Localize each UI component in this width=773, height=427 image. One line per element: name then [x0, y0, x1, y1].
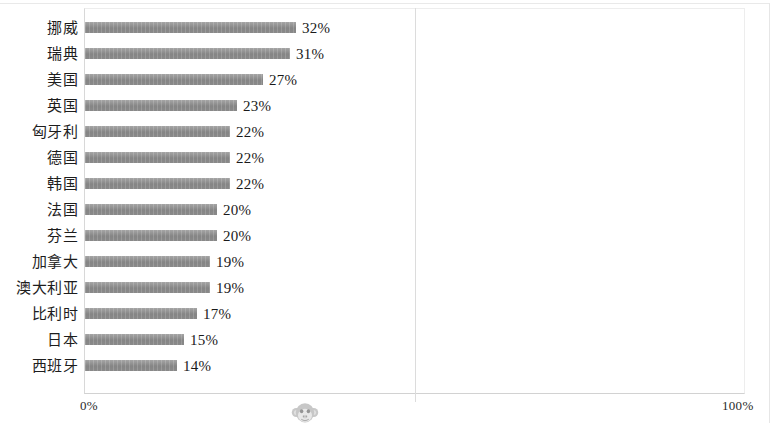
bar	[85, 178, 230, 189]
bar-row: 法国20%	[0, 197, 773, 223]
category-label: 日本	[47, 327, 78, 353]
bar-value-label: 23%	[243, 93, 271, 119]
bar	[85, 152, 230, 163]
x-axis-tick-0: 0%	[80, 398, 98, 414]
bar	[85, 230, 217, 241]
monkey-face-watermark-icon	[291, 400, 319, 426]
bar	[85, 360, 177, 371]
bar-value-label: 15%	[190, 327, 218, 353]
bar	[85, 48, 290, 59]
category-label: 比利时	[32, 301, 79, 327]
bar	[85, 22, 296, 33]
bar-row: 西班牙14%	[0, 353, 773, 379]
bar	[85, 282, 210, 293]
bar-value-label: 20%	[223, 197, 251, 223]
category-label: 韩国	[47, 171, 78, 197]
bar-value-label: 19%	[216, 275, 244, 301]
bar	[85, 204, 217, 215]
bar-value-label: 22%	[236, 171, 264, 197]
bar-value-label: 32%	[302, 15, 330, 41]
category-label: 英国	[47, 93, 78, 119]
bar-value-label: 22%	[236, 145, 264, 171]
bar-value-label: 14%	[183, 353, 211, 379]
category-label: 芬兰	[47, 223, 78, 249]
bar-row: 比利时17%	[0, 301, 773, 327]
bar-value-label: 20%	[223, 223, 251, 249]
category-label: 德国	[47, 145, 78, 171]
bar-rows: 挪威32%瑞典31%美国27%英国23%匈牙利22%德国22%韩国22%法国20…	[0, 0, 773, 394]
category-label: 加拿大	[32, 249, 79, 275]
bar-value-label: 31%	[296, 41, 324, 67]
x-axis-tick-100: 100%	[722, 398, 754, 414]
x-axis: 0% 100%	[0, 398, 773, 427]
bar	[85, 74, 263, 85]
bar-row: 芬兰20%	[0, 223, 773, 249]
bar-row: 英国23%	[0, 93, 773, 119]
bar	[85, 100, 237, 111]
bar-row: 德国22%	[0, 145, 773, 171]
category-label: 挪威	[47, 15, 78, 41]
bar	[85, 308, 197, 319]
bar-row: 韩国22%	[0, 171, 773, 197]
bar-row: 加拿大19%	[0, 249, 773, 275]
bar-row: 日本15%	[0, 327, 773, 353]
bar-row: 美国27%	[0, 67, 773, 93]
category-label: 西班牙	[32, 353, 79, 379]
bar-chart: 挪威32%瑞典31%美国27%英国23%匈牙利22%德国22%韩国22%法国20…	[0, 0, 773, 427]
bar-row: 瑞典31%	[0, 41, 773, 67]
category-label: 澳大利亚	[16, 275, 78, 301]
bar	[85, 334, 184, 345]
bar	[85, 126, 230, 137]
bar-row: 匈牙利22%	[0, 119, 773, 145]
bar-value-label: 22%	[236, 119, 264, 145]
bar-value-label: 19%	[216, 249, 244, 275]
category-label: 匈牙利	[32, 119, 79, 145]
category-label: 美国	[47, 67, 78, 93]
bar-row: 澳大利亚19%	[0, 275, 773, 301]
category-label: 瑞典	[47, 41, 78, 67]
bar	[85, 256, 210, 267]
category-label: 法国	[47, 197, 78, 223]
bar-value-label: 17%	[203, 301, 231, 327]
bar-row: 挪威32%	[0, 15, 773, 41]
bar-value-label: 27%	[269, 67, 297, 93]
